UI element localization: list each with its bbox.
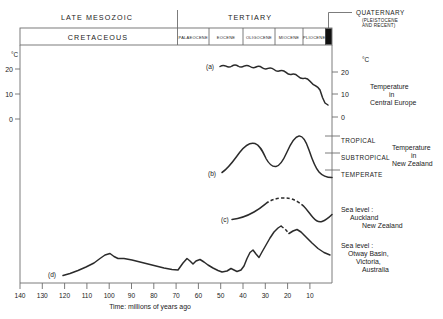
zone-label-subtropical: SUBTROPICAL [341, 154, 390, 161]
x-tick-label-40: 40 [239, 292, 247, 299]
right-axis-unit: °C [362, 56, 370, 63]
x-tick-label-70: 70 [172, 292, 180, 299]
series-a-marker-label: (a) [206, 63, 214, 71]
quaternary-sub-line2: AND RECENT) [362, 23, 396, 28]
left-tick-label-20: 20 [5, 66, 13, 73]
x-tick-label-100: 100 [104, 292, 115, 299]
ann-d-line2: Otway Basin, [348, 250, 389, 258]
ann-a-line3: Central Europe [370, 99, 417, 107]
ann-d-line1: Sea level : [341, 242, 373, 249]
series-c-marker-label: (c) [221, 216, 229, 224]
x-tick-label-80: 80 [150, 292, 158, 299]
epoch-label-oligocene: OLIGOCENE [246, 35, 272, 40]
zone-label-tropical: TROPICAL [341, 137, 376, 144]
ann-b-line3: New Zealand [392, 160, 433, 167]
x-tick-label-20: 20 [284, 292, 292, 299]
x-tick-label-60: 60 [195, 292, 203, 299]
series-b-marker-label: (b) [208, 170, 216, 178]
x-tick-label-130: 130 [37, 292, 48, 299]
era-label-late-mesozoic: LATE MESOZOIC [61, 13, 133, 22]
right-tick-label-20: 20 [341, 69, 349, 76]
quaternary-label: QUATERNARY [356, 9, 405, 17]
x-tick-label-30: 30 [262, 292, 270, 299]
ann-b-line2: in [411, 152, 417, 159]
x-tick-label-90: 90 [128, 292, 136, 299]
x-tick-label-50: 50 [217, 292, 225, 299]
right-tick-label-10: 10 [341, 91, 349, 98]
quaternary-sub-line1: (PLEISTOCENE [362, 18, 398, 23]
chart-root: LATE MESOZOIC TERTIARY CRETACEOUS PALAEO… [0, 0, 443, 319]
x-tick-label-10: 10 [306, 292, 314, 299]
quaternary-block [326, 29, 332, 45]
epoch-label-palaeocene: PALAEOCENE [179, 35, 208, 40]
ann-a-line2: in [389, 91, 395, 98]
ann-a-line1: Temperature [370, 83, 409, 91]
epoch-label-eocene: EOCENE [217, 35, 235, 40]
ann-d-line3: Victoria, [356, 258, 381, 265]
ann-b-line1: Temperature [392, 144, 431, 152]
epoch-label-pliocene: PLIOCENE [303, 35, 325, 40]
left-tick-label-0: 0 [9, 116, 13, 123]
x-tick-label-120: 120 [59, 292, 70, 299]
epoch-label-miocene: MIOCENE [279, 35, 300, 40]
left-axis-unit: °C [11, 51, 19, 58]
ann-d-line4: Australia [362, 266, 389, 273]
x-tick-label-110: 110 [82, 292, 93, 299]
ann-c-line1: Sea level : [341, 206, 373, 213]
zone-label-temperate: TEMPERATE [341, 171, 383, 178]
period-label-cretaceous: CRETACEOUS [68, 33, 128, 42]
paleoclimate-chart: LATE MESOZOIC TERTIARY CRETACEOUS PALAEO… [0, 0, 443, 319]
left-tick-label-10: 10 [5, 91, 13, 98]
ann-c-line2: Auckland [350, 214, 379, 221]
x-tick-label-140: 140 [14, 292, 25, 299]
right-tick-label-0: 0 [341, 114, 345, 121]
x-axis-title: Time: millions of years ago [109, 303, 191, 311]
era-label-tertiary: TERTIARY [228, 13, 272, 22]
ann-c-line3: New Zealand [362, 222, 403, 229]
series-d-marker-label: (d) [48, 271, 56, 279]
